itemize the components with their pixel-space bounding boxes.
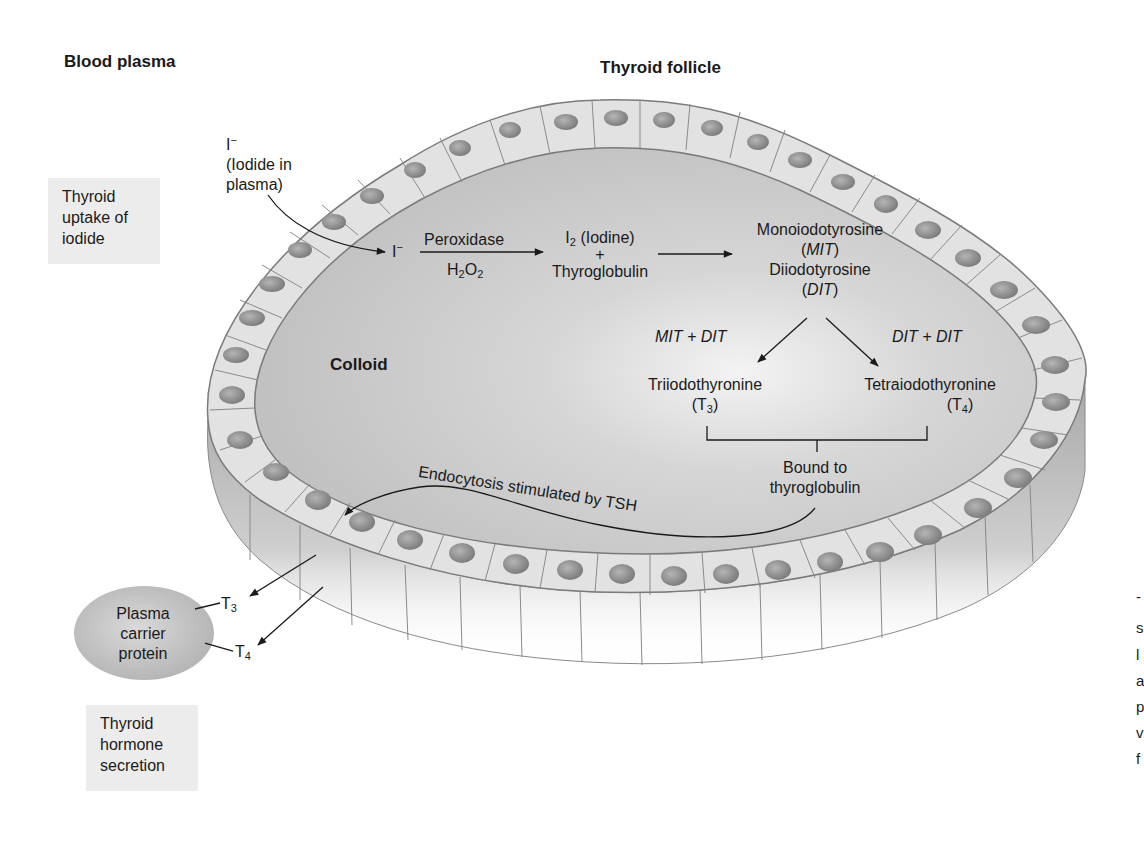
t3-label: Triiodothyronine (T3): [630, 375, 780, 415]
blood-plasma-label: Blood plasma: [64, 52, 175, 72]
secretion-process-box: Thyroid hormone secretion: [86, 705, 198, 791]
t3-abbr: T: [697, 396, 707, 413]
carrier-t4-sub: 4: [245, 650, 251, 662]
carrier-line3: protein: [90, 644, 196, 664]
margin-caption-fragment: p: [1136, 698, 1144, 715]
thyroid-follicle-label: Thyroid follicle: [600, 58, 721, 78]
margin-caption-fragment: -: [1136, 588, 1141, 605]
secretion-line-3: secretion: [100, 755, 184, 776]
dit-plus-dit-label: DIT + DIT: [892, 327, 962, 347]
iodide-in-cell-label: I−: [392, 242, 403, 262]
h2o2-h: H: [447, 261, 459, 278]
margin-caption-fragment: f: [1136, 750, 1140, 767]
carrier-protein-label: Plasma carrier protein: [90, 604, 196, 664]
peroxidase-label: Peroxidase: [424, 230, 504, 250]
iodide-cell-charge: −: [396, 241, 402, 253]
bound-to-thyroglobulin-label: Bound to thyroglobulin: [755, 458, 875, 498]
dit-name: Diiodotyrosine: [730, 260, 910, 280]
secretion-line-2: hormone: [100, 734, 184, 755]
iodine-thyroglobulin-label: I2 (Iodine) + Thyroglobulin: [540, 228, 660, 282]
margin-caption-fragment: a: [1136, 672, 1144, 689]
mit-abbr: MIT: [806, 241, 834, 258]
carrier-t4-label: T4: [235, 642, 251, 662]
dit-abbr: DIT: [807, 281, 833, 298]
iodide-plasma-line1: (Iodide in: [226, 155, 292, 175]
bound-line2: thyroglobulin: [755, 478, 875, 498]
carrier-t3: T: [221, 595, 231, 612]
carrier-t4: T: [235, 643, 245, 660]
colloid-label: Colloid: [330, 355, 388, 375]
secretion-line-1: Thyroid: [100, 713, 184, 734]
h2o2-sub2: 2: [477, 268, 483, 280]
iodide-charge: −: [230, 134, 236, 146]
t4-abbr: T: [952, 396, 962, 413]
uptake-line-2: uptake of: [62, 207, 146, 228]
iodine-sub: 2: [570, 236, 576, 248]
mit-dit-label: Monoiodotyrosine (MIT) Diiodotyrosine (D…: [730, 220, 910, 300]
bound-line1: Bound to: [755, 458, 875, 478]
margin-caption-fragment: s: [1136, 619, 1144, 636]
h2o2-label: H2O2: [447, 260, 483, 280]
thyroglobulin-label: Thyroglobulin: [540, 262, 660, 282]
iodide-plasma-line2: plasma): [226, 175, 292, 195]
uptake-process-box: Thyroid uptake of iodide: [48, 178, 160, 264]
mit-name: Monoiodotyrosine: [730, 220, 910, 240]
secretion-arrow-t4: [258, 587, 323, 645]
iodine-name: (Iodine): [580, 229, 634, 246]
carrier-t3-label: T3: [221, 594, 237, 614]
iodide-plasma-label: I− (Iodide in plasma): [226, 135, 292, 195]
h2o2-o: O: [465, 261, 477, 278]
margin-caption-fragment: l: [1136, 646, 1139, 663]
mit-plus-dit-label: MIT + DIT: [655, 327, 727, 347]
carrier-line2: carrier: [90, 624, 196, 644]
t4-sub: 4: [962, 403, 968, 415]
t4-label: Tetraiodothyronine (T4): [840, 375, 1020, 415]
uptake-line-3: iodide: [62, 228, 146, 249]
carrier-t3-sub: 3: [231, 602, 237, 614]
t4-name: Tetraiodothyronine: [840, 375, 1020, 395]
carrier-line1: Plasma: [90, 604, 196, 624]
uptake-line-1: Thyroid: [62, 186, 146, 207]
margin-caption-fragment: v: [1136, 724, 1144, 741]
t3-sub: 3: [707, 403, 713, 415]
plus-sign: +: [540, 248, 660, 262]
t3-name: Triiodothyronine: [630, 375, 780, 395]
